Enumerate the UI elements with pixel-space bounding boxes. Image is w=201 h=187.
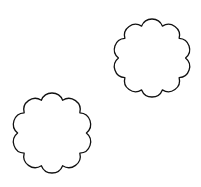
diagram-canvas	[0, 0, 201, 187]
scalloped-shape-top-right	[114, 19, 189, 97]
scalloped-shape-bottom-left	[13, 93, 90, 173]
